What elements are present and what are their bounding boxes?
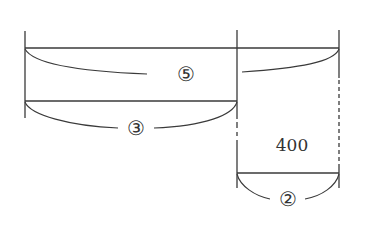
right-ratio-label: ② [279,187,297,211]
left-ratio-label: ③ [127,116,145,140]
total-ratio-label: ⑤ [177,62,195,86]
difference-value-label: 400 [276,135,308,155]
segment-diagram: ⑤ ③ 400 ② [0,0,366,230]
